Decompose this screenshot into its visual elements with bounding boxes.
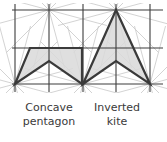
label-line-2: pentagon xyxy=(14,115,84,129)
guide-ray xyxy=(49,10,107,26)
guide-ray xyxy=(7,10,49,52)
grid-diagram xyxy=(0,0,167,100)
label-line-1: Concave xyxy=(14,101,84,115)
label-line-2: kite xyxy=(82,115,152,129)
label-inverted-kite: Inverted kite xyxy=(82,101,152,129)
guide-ray xyxy=(150,26,166,84)
label-concave-pentagon: Concave pentagon xyxy=(14,101,84,129)
guide-ray xyxy=(58,10,116,26)
guide-ray xyxy=(49,10,91,52)
guide-ray xyxy=(0,26,15,84)
label-line-1: Inverted xyxy=(82,101,152,115)
